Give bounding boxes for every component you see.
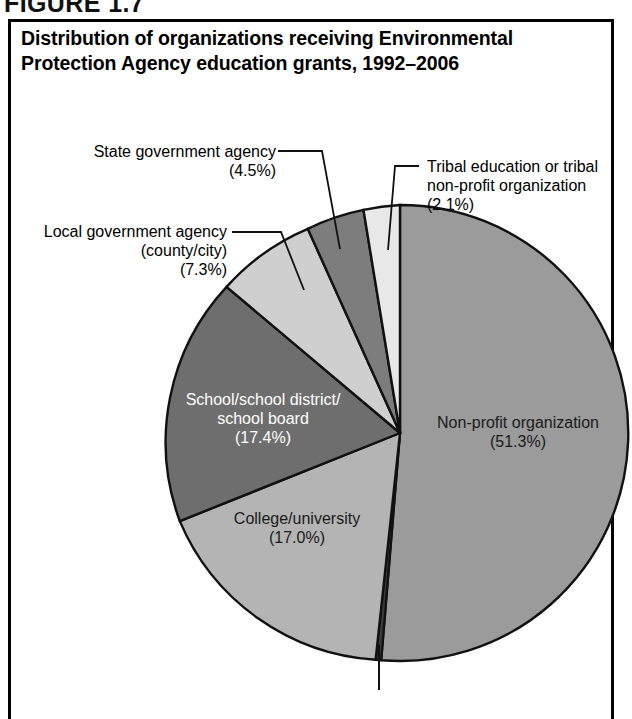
callout-local-government-agency: Local government agency (county/city) (7…	[22, 222, 227, 279]
slice-label-school-district: School/school district/ school board (17…	[148, 390, 378, 447]
callout-tribal-education: Tribal education or tribal non-profit or…	[427, 157, 627, 214]
callout-state-government-agency: State government agency (4.5%)	[86, 142, 276, 180]
slice-label-college-university: College/university (17.0%)	[202, 509, 392, 547]
slice-label-non-profit-organization: Non-profit organization (51.3%)	[408, 413, 628, 451]
